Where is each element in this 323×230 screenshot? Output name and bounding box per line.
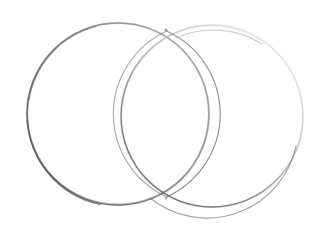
- top-crossing-point: [165, 29, 168, 32]
- venn-diagram-figure: [0, 0, 323, 230]
- sketch-canvas: [0, 0, 323, 230]
- bottom-crossing-point: [165, 197, 168, 200]
